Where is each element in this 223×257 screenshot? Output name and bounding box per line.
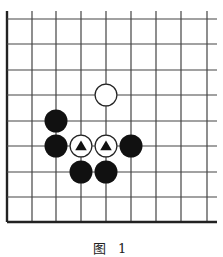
stones-layer [45,84,143,183]
board-grid [7,11,217,222]
black-stone [70,161,93,184]
white-stone [95,84,117,106]
black-stone [120,135,143,158]
figure-caption: 图 1 [0,238,223,257]
black-stone [45,135,68,158]
black-stone [95,161,118,184]
black-stone [45,110,68,133]
